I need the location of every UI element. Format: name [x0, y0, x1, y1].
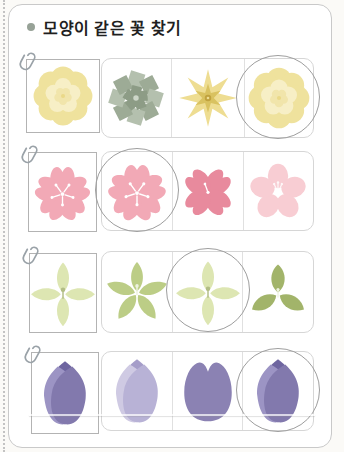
reference-flower-box-3	[29, 253, 97, 333]
page-title: 모양이 같은 꽃 찾기	[43, 15, 182, 39]
three-petal-green-flower	[247, 261, 309, 323]
title-row: 모양이 같은 꽃 찾기	[27, 15, 182, 39]
perforation-edge	[3, 0, 5, 452]
candidate-cell[interactable]	[243, 152, 314, 230]
worksheet-page: 모양이 같은 꽃 찾기	[8, 4, 332, 448]
worksheet-scan: 모양이 같은 꽃 찾기	[0, 0, 344, 452]
candidate-cell[interactable]	[102, 59, 171, 137]
pointed-lavender-tulip	[104, 355, 170, 427]
five-petal-pink-cherry-blossom	[29, 157, 96, 227]
candidate-cell[interactable]	[172, 352, 243, 430]
page-crease-line	[29, 414, 315, 416]
candidate-cell[interactable]	[242, 252, 313, 332]
candidate-cell[interactable]	[102, 252, 172, 332]
four-petal-green-cross-flower	[30, 260, 96, 326]
candidate-cell[interactable]	[171, 59, 244, 137]
pointed-star-yellow-flower	[172, 62, 244, 134]
answer-circle	[236, 348, 320, 432]
layered-round-yellow-flower	[31, 64, 95, 128]
bullet-icon	[27, 23, 35, 31]
five-petal-green-star-flower	[103, 258, 171, 326]
candidate-cell[interactable]	[172, 152, 243, 230]
answer-circle	[95, 148, 179, 232]
reference-flower-box-2	[28, 152, 97, 232]
answer-circle	[236, 55, 320, 139]
reference-flower-box-4	[31, 352, 99, 434]
five-round-petal-pink-flower	[244, 157, 312, 225]
square-petal-pinwheel-flower	[102, 64, 170, 132]
reference-flower-box-1	[26, 59, 100, 133]
four-petal-notched-pink-flower	[175, 158, 241, 224]
candidate-cell[interactable]	[102, 352, 172, 430]
answer-circle	[166, 248, 250, 332]
pointed-purple-tulip	[32, 355, 98, 431]
